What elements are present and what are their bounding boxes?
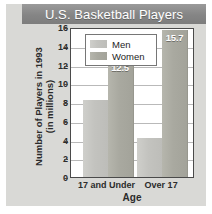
y-tick-mark — [64, 47, 68, 48]
bar-men-0 — [83, 100, 109, 177]
bar-men-1 — [137, 138, 163, 177]
legend-label-women: Women — [112, 51, 145, 62]
legend: Men Women — [85, 34, 157, 66]
y-axis-ticks: 0246810121416 — [46, 28, 68, 178]
y-tick-mark — [64, 159, 68, 160]
plot-area: 12.515.7 Men Women — [70, 28, 194, 178]
y-tick-mark — [64, 122, 68, 123]
x-axis-title: Age — [70, 192, 194, 203]
bar-value-label: 15.7 — [162, 32, 187, 43]
bar-women-0: 12.5 — [108, 60, 134, 177]
y-tick-mark — [64, 141, 68, 142]
legend-item-women: Women — [90, 50, 152, 62]
legend-label-men: Men — [112, 39, 130, 50]
y-tick-mark — [64, 28, 68, 29]
y-tick-mark — [64, 66, 68, 67]
chart-title-banner: U.S. Basketball Players — [22, 4, 206, 24]
y-tick-mark — [64, 178, 68, 179]
x-tick-label: 17 and Under — [78, 180, 135, 190]
bar-women-1: 15.7 — [162, 30, 188, 177]
y-tick-mark — [64, 103, 68, 104]
legend-swatch-men — [90, 40, 107, 48]
chart-title: U.S. Basketball Players — [45, 7, 183, 22]
legend-item-men: Men — [90, 38, 152, 50]
chart-figure: U.S. Basketball Players Number of Player… — [0, 0, 212, 214]
legend-swatch-women — [90, 52, 107, 60]
x-tick-label: Over 17 — [145, 180, 178, 190]
y-tick-mark — [64, 84, 68, 85]
